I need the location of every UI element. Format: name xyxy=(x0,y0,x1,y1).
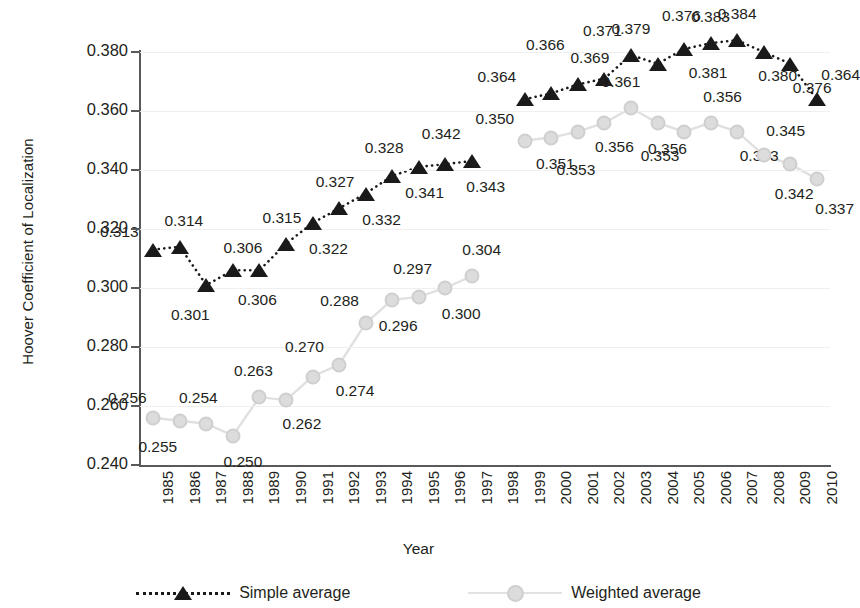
data-point-circle xyxy=(809,171,824,186)
x-axis-tick-label: 1999 xyxy=(531,471,548,531)
data-point-circle xyxy=(544,130,559,145)
data-point-label: 0.379 xyxy=(612,20,651,38)
data-point-label: 0.255 xyxy=(138,438,177,456)
data-point-circle xyxy=(411,289,426,304)
data-point-label: 0.353 xyxy=(641,147,680,165)
x-axis-tick-label: 1987 xyxy=(212,471,229,531)
data-point-triangle xyxy=(277,237,295,251)
data-point-circle xyxy=(730,124,745,139)
data-point-label: 0.297 xyxy=(393,260,432,278)
y-axis-tick-label: 0.360 xyxy=(44,100,128,119)
data-point-label: 0.342 xyxy=(775,185,814,203)
x-axis-tick-label: 1986 xyxy=(186,471,203,531)
data-point-label: 0.288 xyxy=(320,292,359,310)
data-point-label: 0.315 xyxy=(263,209,302,227)
data-point-label: 0.350 xyxy=(475,110,514,128)
x-axis-tick-label: 2004 xyxy=(664,471,681,531)
data-point-circle xyxy=(358,316,373,331)
data-point-circle xyxy=(783,157,798,172)
x-axis-tick-label: 1985 xyxy=(159,471,176,531)
data-point-label: 0.356 xyxy=(595,138,634,156)
data-point-triangle xyxy=(649,57,667,71)
x-axis-tick-label: 1994 xyxy=(398,471,415,531)
data-point-label: 0.345 xyxy=(766,122,805,140)
x-axis-title: Year xyxy=(0,540,837,558)
data-point-label: 0.263 xyxy=(234,362,273,380)
x-axis-tick-label: 1998 xyxy=(504,471,521,531)
x-axis-tick-label: 2000 xyxy=(557,471,574,531)
data-point-circle xyxy=(756,148,771,163)
y-axis-tick xyxy=(131,51,140,53)
data-point-label: 0.328 xyxy=(365,139,404,157)
x-axis-tick-label: 1995 xyxy=(425,471,442,531)
data-point-label: 0.343 xyxy=(466,178,505,196)
data-point-circle xyxy=(146,410,161,425)
data-point-circle xyxy=(677,124,692,139)
x-axis-tick-label: 2003 xyxy=(637,471,654,531)
data-point-label: 0.337 xyxy=(815,200,854,218)
chart-legend: Simple average Weighted average xyxy=(0,578,837,608)
data-point-label: 0.384 xyxy=(718,5,757,23)
y-axis-tick xyxy=(131,464,140,466)
data-point-triangle xyxy=(330,201,348,215)
data-point-label: 0.369 xyxy=(570,49,609,67)
data-point-label: 0.366 xyxy=(526,36,565,54)
x-axis-tick-label: 2008 xyxy=(770,471,787,531)
x-axis-tick-label: 1997 xyxy=(478,471,495,531)
data-point-label: 0.322 xyxy=(309,240,348,258)
data-point-label: 0.356 xyxy=(703,88,742,106)
x-axis-tick-label: 2006 xyxy=(717,471,734,531)
data-point-triangle xyxy=(808,92,826,106)
data-point-label: 0.342 xyxy=(422,125,461,143)
gridline xyxy=(140,288,830,289)
y-axis-tick-label: 0.280 xyxy=(44,336,128,355)
data-point-label: 0.353 xyxy=(556,161,595,179)
data-point-triangle xyxy=(171,240,189,254)
data-point-circle xyxy=(438,281,453,296)
y-axis-tick xyxy=(131,346,140,348)
data-point-circle xyxy=(385,292,400,307)
data-point-circle xyxy=(650,115,665,130)
data-point-triangle xyxy=(728,33,746,47)
data-point-triangle xyxy=(197,278,215,292)
gridline xyxy=(140,229,830,230)
data-point-triangle xyxy=(357,187,375,201)
data-point-circle xyxy=(597,115,612,130)
data-point-label: 0.364 xyxy=(821,66,860,84)
y-axis-tick-label: 0.340 xyxy=(44,159,128,178)
data-point-label: 0.364 xyxy=(477,68,516,86)
x-axis-tick-label: 2002 xyxy=(610,471,627,531)
data-point-circle xyxy=(252,390,267,405)
x-axis-tick-label: 1988 xyxy=(239,471,256,531)
x-axis-tick-label: 1991 xyxy=(319,471,336,531)
data-point-label: 0.301 xyxy=(171,306,210,324)
legend-label-weighted-average: Weighted average xyxy=(571,584,701,602)
x-axis-tick-label: 1992 xyxy=(345,471,362,531)
y-axis-tick xyxy=(131,228,140,230)
data-point-circle xyxy=(199,416,214,431)
data-point-triangle xyxy=(436,157,454,171)
x-axis-tick-label: 2001 xyxy=(584,471,601,531)
data-point-label: 0.300 xyxy=(442,305,481,323)
data-point-label: 0.314 xyxy=(164,212,203,230)
data-point-label: 0.341 xyxy=(405,184,444,202)
legend-item-weighted-average[interactable]: Weighted average xyxy=(468,583,701,603)
data-point-label: 0.262 xyxy=(283,415,322,433)
data-point-triangle xyxy=(410,160,428,174)
x-axis-tick-label: 2007 xyxy=(743,471,760,531)
data-point-circle xyxy=(172,413,187,428)
data-point-label: 0.381 xyxy=(689,64,728,82)
data-point-label: 0.361 xyxy=(602,73,641,91)
data-point-circle xyxy=(332,357,347,372)
data-point-triangle xyxy=(516,92,534,106)
data-point-label: 0.304 xyxy=(462,241,501,259)
legend-item-simple-average[interactable]: Simple average xyxy=(136,583,350,603)
data-point-label: 0.256 xyxy=(108,389,147,407)
data-point-circle xyxy=(278,393,293,408)
y-axis-tick xyxy=(131,405,140,407)
data-point-label: 0.274 xyxy=(336,382,375,400)
data-point-triangle xyxy=(542,86,560,100)
x-axis-tick-label: 2010 xyxy=(823,471,840,531)
data-point-triangle xyxy=(304,216,322,230)
